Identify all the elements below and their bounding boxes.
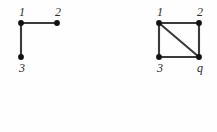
graph-node: [156, 54, 162, 60]
node-label: 3: [153, 62, 167, 74]
graph-node: [196, 20, 202, 26]
graph-node: [54, 20, 60, 26]
path-graph-p3: [18, 20, 60, 60]
node-label: 3: [15, 62, 29, 74]
square-with-diagonal: [156, 20, 202, 60]
graph-node: [18, 54, 24, 60]
node-label: 2: [51, 6, 65, 18]
graph-node: [18, 20, 24, 26]
node-label: 1: [153, 6, 167, 18]
graph-node: [196, 54, 202, 60]
graph-canvas: [0, 0, 217, 132]
graph-figure: 123123q: [0, 0, 217, 132]
graph-node: [156, 20, 162, 26]
node-label: 1: [15, 6, 29, 18]
graph-edge: [159, 23, 199, 57]
node-label: 2: [193, 6, 207, 18]
node-label: q: [193, 62, 207, 74]
